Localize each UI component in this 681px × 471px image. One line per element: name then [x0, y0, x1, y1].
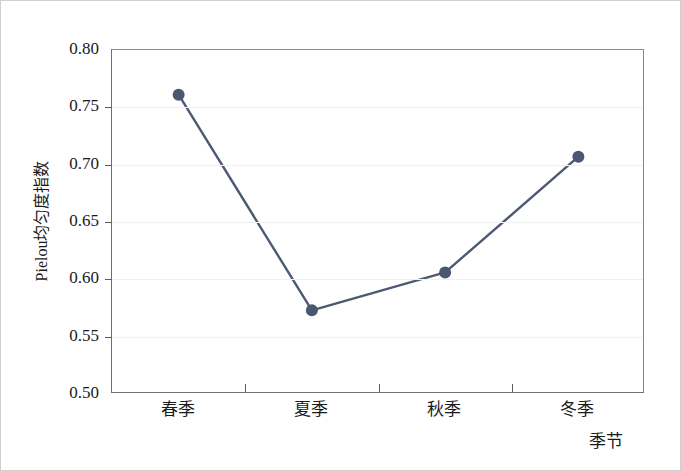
gridline — [112, 107, 643, 108]
plot-area: 春季: 0.761夏季: 0.573秋季: 0.606冬季: 0.707 — [111, 49, 644, 393]
data-point-marker: 秋季: 0.606 — [439, 266, 451, 278]
y-axis-tick-label: 0.70 — [35, 155, 99, 172]
y-axis-tick-label: 0.50 — [35, 384, 99, 401]
chart-figure: Pielou均匀度指数 0.800.750.700.650.600.550.50… — [0, 0, 681, 471]
x-axis-tick-label: 秋季 — [384, 399, 504, 421]
gridline — [112, 279, 643, 280]
y-axis-tick-label: 0.75 — [35, 97, 99, 114]
x-axis-tick-label: 冬季 — [517, 399, 637, 421]
x-axis-tick-labels: 春季夏季秋季冬季 — [111, 399, 644, 427]
data-point-marker: 冬季: 0.707 — [572, 151, 584, 163]
gridline — [112, 165, 643, 166]
data-point-marker: 夏季: 0.573 — [306, 304, 318, 316]
y-axis-tick — [105, 165, 112, 166]
gridline — [112, 337, 643, 338]
y-axis-tick-label: 0.65 — [35, 212, 99, 229]
x-axis-title: 季节 — [561, 431, 651, 453]
x-axis-tick-label: 夏季 — [251, 399, 371, 421]
data-point-marker: 春季: 0.761 — [173, 89, 185, 101]
y-axis-tick — [105, 337, 112, 338]
y-axis-tick — [105, 279, 112, 280]
series-line — [179, 95, 579, 311]
x-axis-tick — [245, 384, 246, 392]
y-axis-tick-labels: 0.800.750.700.650.600.550.50 — [35, 1, 99, 471]
y-axis-tick-label: 0.80 — [35, 40, 99, 57]
y-axis-tick-label: 0.55 — [35, 327, 99, 344]
y-axis-tick — [105, 107, 112, 108]
x-axis-tick — [379, 384, 380, 392]
y-axis-tick-label: 0.60 — [35, 269, 99, 286]
x-axis-tick — [512, 384, 513, 392]
y-axis-tick — [105, 222, 112, 223]
gridline — [112, 222, 643, 223]
x-axis-tick-label: 春季 — [118, 399, 238, 421]
